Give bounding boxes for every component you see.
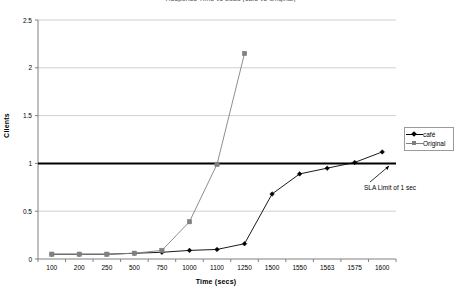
- series-line-café: [52, 152, 382, 254]
- callout-leader-line: [370, 166, 389, 182]
- data-point-marker: [242, 51, 246, 55]
- legend-item-cafe[interactable]: café: [406, 130, 451, 139]
- data-point-marker: [187, 220, 191, 224]
- plot-area: [0, 0, 461, 298]
- sla-limit-annotation-text: SLA Limit of 1 sec: [364, 184, 416, 191]
- legend-label-original: Original: [423, 139, 445, 148]
- data-point-marker: [50, 252, 54, 256]
- data-point-marker: [160, 248, 164, 252]
- gridlines: [38, 20, 396, 211]
- series-line-original: [52, 53, 245, 254]
- sla-limit-callout-leader: [370, 166, 389, 182]
- chart-legend: café Original: [404, 127, 454, 151]
- legend-item-original[interactable]: Original: [406, 139, 451, 148]
- square-marker-icon: [406, 139, 423, 148]
- data-point-marker: [242, 241, 247, 246]
- data-point-marker: [105, 252, 109, 256]
- data-point-marker: [380, 150, 385, 155]
- legend-label-cafe: café: [423, 130, 435, 139]
- data-point-marker: [215, 162, 219, 166]
- data-point-marker: [77, 252, 81, 256]
- data-series: [49, 51, 384, 256]
- line-chart: Response Time vs Load (café vs Original)…: [0, 0, 461, 298]
- data-point-marker: [215, 247, 220, 252]
- data-point-marker: [187, 248, 192, 253]
- data-point-marker: [132, 251, 136, 255]
- diamond-marker-icon: [406, 130, 423, 139]
- axes: [35, 20, 396, 259]
- data-point-marker: [325, 166, 330, 171]
